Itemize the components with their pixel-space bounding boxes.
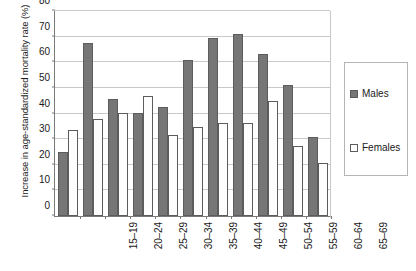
x-tick-mark: [180, 216, 181, 219]
bar-males: [233, 34, 243, 216]
y-tick-label: 70: [39, 22, 50, 32]
bar-females: [168, 135, 178, 216]
x-tick-mark: [130, 216, 131, 219]
x-tick-mark: [256, 216, 257, 219]
legend-entry-males: Males: [350, 89, 389, 99]
bar-males: [183, 60, 193, 216]
bar-group: [231, 11, 256, 216]
bar-group: [130, 11, 155, 216]
legend-label-females: Females: [362, 143, 400, 153]
legend-swatch-males-icon: [350, 90, 358, 98]
x-tick-mark: [155, 216, 156, 219]
y-tick-label: 30: [39, 124, 50, 134]
x-tick-mark: [306, 216, 307, 219]
bar-group: [80, 11, 105, 216]
x-tick-label: 45–49: [278, 222, 289, 271]
plot-area: 01020304050607080: [54, 11, 330, 217]
bar-males: [283, 85, 293, 216]
y-axis-title: Increase in age-standardized mortality r…: [20, 0, 30, 206]
chart-legend: Males Females: [344, 62, 408, 176]
bar-group: [155, 11, 180, 216]
x-tick-mark: [231, 216, 232, 219]
x-tick-label: 20–24: [153, 222, 164, 271]
bar-males: [83, 43, 93, 216]
x-tick-label: 25–29: [178, 222, 189, 271]
bar-females: [93, 119, 103, 216]
bar-group: [55, 11, 80, 216]
x-tick-label: 35–39: [228, 222, 239, 271]
bar-females: [268, 101, 278, 216]
bar-females: [318, 163, 328, 216]
x-tick-label: 60–64: [353, 222, 364, 271]
bar-males: [208, 38, 218, 216]
bar-females: [218, 123, 228, 216]
bar-group: [105, 11, 130, 216]
x-tick-mark: [105, 216, 106, 219]
x-tick-label: 30–34: [203, 222, 214, 271]
x-tick-mark: [331, 216, 332, 219]
x-tick-label: 55–59: [328, 222, 339, 271]
bar-females: [118, 113, 128, 216]
legend-entry-females: Females: [350, 143, 400, 153]
y-tick-label: 80: [39, 0, 50, 6]
y-tick-label: 60: [39, 47, 50, 57]
x-tick-label: 50–54: [303, 222, 314, 271]
x-tick-label: 65–69: [378, 222, 389, 271]
x-tick-label: 40–44: [253, 222, 264, 271]
bar-females: [293, 146, 303, 216]
bar-males: [133, 113, 143, 216]
bar-group: [256, 11, 281, 216]
bar-chart: Increase in age-standardized mortality r…: [0, 0, 416, 271]
y-tick-label: 40: [39, 99, 50, 109]
bar-group: [180, 11, 205, 216]
bar-group: [206, 11, 231, 216]
bar-males: [58, 152, 68, 216]
x-tick-mark: [281, 216, 282, 219]
y-tick-label: 20: [39, 150, 50, 160]
legend-swatch-females-icon: [350, 144, 358, 152]
x-tick-mark: [80, 216, 81, 219]
bar-females: [143, 96, 153, 216]
x-tick-label: 15–19: [128, 222, 139, 271]
bar-males: [308, 137, 318, 216]
bar-males: [158, 107, 168, 216]
bar-females: [243, 123, 253, 216]
legend-label-males: Males: [362, 89, 389, 99]
y-tick-label: 10: [39, 175, 50, 185]
bar-group: [281, 11, 306, 216]
bar-females: [68, 130, 78, 216]
bar-females: [193, 127, 203, 216]
x-tick-mark: [206, 216, 207, 219]
y-tick-label: 0: [44, 201, 50, 211]
bar-group: [306, 11, 331, 216]
bar-males: [258, 54, 268, 216]
bar-males: [108, 99, 118, 216]
y-tick-label: 50: [39, 73, 50, 83]
